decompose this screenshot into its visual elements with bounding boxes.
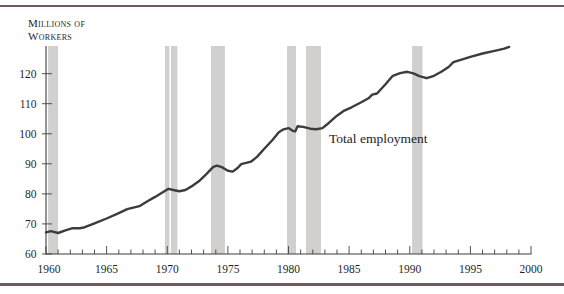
series-label-total-employment: Total employment xyxy=(329,131,427,147)
x-tick-label-1970: 1970 xyxy=(156,263,179,275)
recession-band xyxy=(211,46,225,254)
y-tick-label-90: 90 xyxy=(25,158,37,170)
y-tick-label-110: 110 xyxy=(20,98,37,110)
employment-chart: 1960196519701975198019851990199520006070… xyxy=(0,0,564,294)
x-tick-label-1960: 1960 xyxy=(38,263,61,275)
x-tick-label-1980: 1980 xyxy=(277,263,300,275)
x-tick-label-2000: 2000 xyxy=(520,263,543,275)
x-tick-label-1965: 1965 xyxy=(95,263,118,275)
x-tick-label-1985: 1985 xyxy=(338,263,361,275)
y-tick-label-70: 70 xyxy=(25,218,37,230)
y-tick-label-100: 100 xyxy=(19,128,37,140)
recession-band xyxy=(287,46,296,254)
x-tick-label-1995: 1995 xyxy=(459,263,482,275)
y-tick-label-60: 60 xyxy=(25,248,37,260)
total-employment-line xyxy=(46,47,509,233)
recession-band xyxy=(48,46,58,254)
x-tick-label-1990: 1990 xyxy=(398,263,421,275)
bottom-rule xyxy=(0,283,564,286)
y-tick-label-80: 80 xyxy=(25,188,37,200)
employment-figure: Millions of Workers 19601965197019751980… xyxy=(0,0,564,294)
y-tick-label-120: 120 xyxy=(19,68,37,80)
recession-band xyxy=(306,46,321,254)
recession-band xyxy=(165,46,170,254)
recession-band xyxy=(171,46,177,254)
x-tick-label-1975: 1975 xyxy=(216,263,239,275)
